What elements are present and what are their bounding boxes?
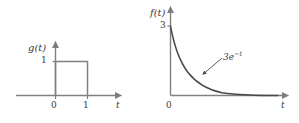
curve-annotation-base: 3e [223, 52, 234, 62]
left-plot-pulse-curve [56, 62, 88, 96]
math-figure-two-plots: g(t) 1 0 1 t f(t) 3 0 t 3e−t [0, 0, 299, 123]
left-plot-y-axis-label: g(t) [28, 43, 46, 53]
left-plot-group [16, 47, 116, 99]
curve-annotation-leader-line [205, 58, 223, 73]
right-plot-x-tick-label-0: 0 [166, 101, 172, 110]
right-plot-y-tick-label-3: 3 [160, 21, 166, 30]
left-plot-x-tick-label-0: 0 [51, 101, 57, 110]
right-plot-curve-annotation: 3e−t [223, 53, 242, 62]
curve-annotation-exponent: −t [234, 50, 242, 58]
right-plot-x-axis-label: t [281, 101, 285, 110]
right-plot-y-axis-label: f(t) [150, 8, 166, 18]
left-plot-x-tick-label-1: 1 [83, 101, 89, 110]
left-plot-x-axis-label: t [116, 101, 120, 110]
left-plot-y-tick-label-1: 1 [41, 56, 47, 65]
